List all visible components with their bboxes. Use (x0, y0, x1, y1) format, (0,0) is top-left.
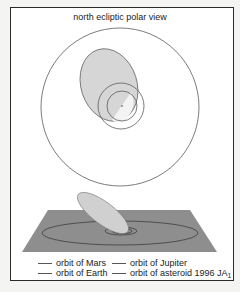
legend-label-asteroid-subscript: 1 (228, 272, 232, 279)
legend-label-asteroid-text: orbit of asteroid 1996 JA (130, 268, 228, 278)
orbit-diagram (0, 0, 240, 292)
legend-swatch-earth (38, 273, 52, 274)
legend-label-mars: orbit of Mars (56, 258, 106, 268)
legend-label-earth: orbit of Earth (56, 268, 108, 278)
legend-item-jupiter: orbit of Jupiter (112, 258, 187, 268)
legend-label-asteroid: orbit of asteroid 1996 JA1 (130, 268, 231, 279)
polar-view (41, 28, 199, 186)
legend-swatch-mars (38, 263, 52, 264)
legend-item-asteroid: orbit of asteroid 1996 JA1 (112, 268, 231, 279)
perspective-view (22, 186, 217, 252)
legend-label-jupiter: orbit of Jupiter (130, 258, 187, 268)
legend-swatch-asteroid (112, 273, 126, 274)
asteroid-orbit (71, 41, 147, 129)
legend-item-mars: orbit of Mars (38, 258, 106, 268)
sun-icon (121, 105, 123, 107)
legend-item-earth: orbit of Earth (38, 268, 108, 278)
legend-swatch-jupiter (112, 263, 126, 264)
